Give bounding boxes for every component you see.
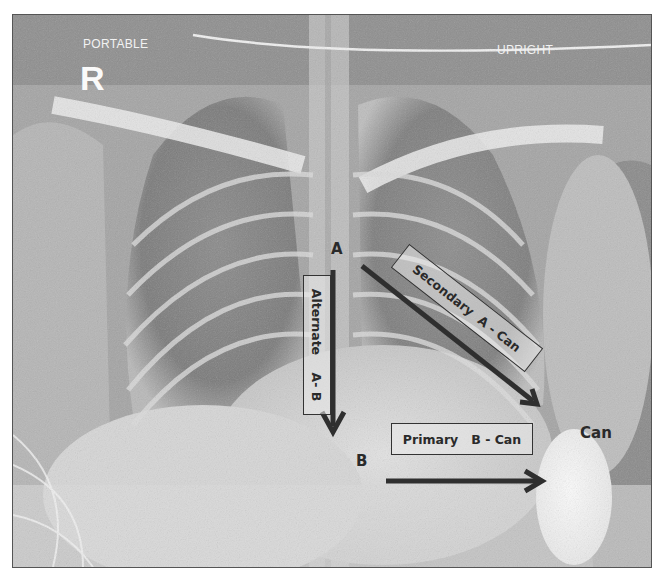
side-marker: R [80, 59, 105, 98]
alternate-vector-box: Alternate A- B [303, 275, 331, 415]
portable-marker: PORTABLE [83, 37, 148, 51]
primary-vector-box: Primary B - Can [391, 423, 533, 455]
chest-xray-image [13, 15, 651, 567]
point-a-label: A [331, 240, 343, 258]
xray-frame: PORTABLE UPRIGHT R [12, 14, 652, 568]
point-b-label: B [356, 452, 367, 470]
upright-marker: UPRIGHT [497, 43, 553, 57]
can-label: Can [580, 424, 612, 442]
